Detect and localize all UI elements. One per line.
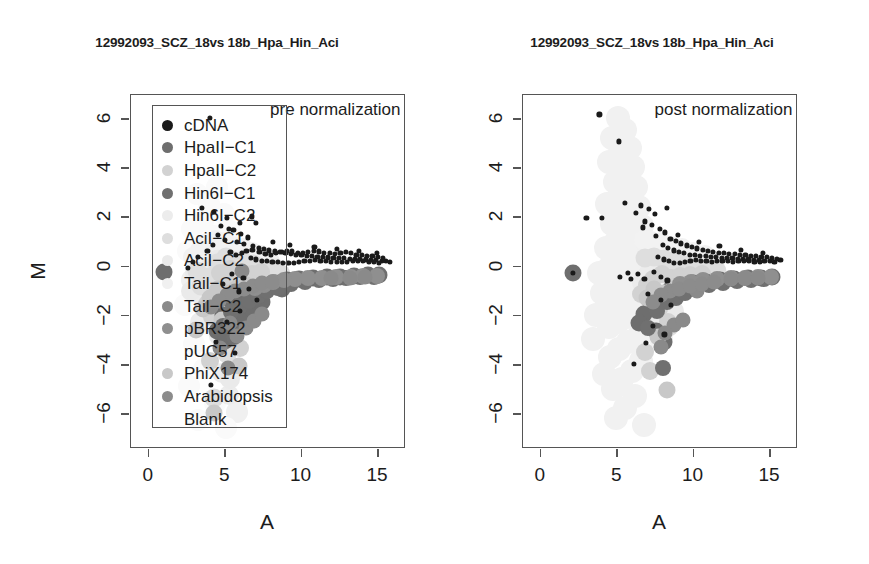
- legend-item[interactable]: Blank: [153, 408, 286, 431]
- legend-item[interactable]: HpaII−C1: [153, 137, 286, 160]
- legend-swatch-icon: [162, 142, 173, 153]
- x-tick-mark: [693, 449, 695, 457]
- x-tick-label: 15: [366, 464, 387, 486]
- y-tick-mark: [513, 216, 521, 218]
- legend-item[interactable]: AciI−C2: [153, 250, 286, 273]
- legend-swatch-icon: [162, 278, 173, 289]
- y-tick-mark: [121, 118, 129, 120]
- x-tick-label: 15: [758, 464, 779, 486]
- legend-label: pBR322: [184, 320, 245, 337]
- legend-item[interactable]: Tail−C1: [153, 272, 286, 295]
- y-tick-label: −4: [485, 353, 507, 375]
- x-axis-title: A: [260, 510, 274, 534]
- x-tick-label: 5: [219, 464, 230, 486]
- y-tick-mark: [121, 167, 129, 169]
- x-axis-title: A: [652, 510, 666, 534]
- legend-swatch-icon: [162, 368, 173, 379]
- y-tick-mark: [513, 364, 521, 366]
- y-tick-mark: [121, 216, 129, 218]
- y-tick-label: 0: [93, 260, 115, 271]
- panel-annotation-pre: pre normalization: [270, 100, 400, 120]
- legend-label: Tail−C1: [184, 275, 241, 292]
- x-tick-mark: [148, 449, 150, 457]
- legend-swatch-icon: [162, 233, 173, 244]
- y-tick-mark: [513, 315, 521, 317]
- x-tick-mark: [616, 449, 618, 457]
- y-tick-mark: [121, 364, 129, 366]
- ma-plot-figure: 12992093_SCZ_18vs 18b_Hpa_Hin_Aci 129920…: [0, 0, 869, 564]
- legend-label: HpaII−C1: [184, 139, 256, 156]
- panel-annotation-post: post normalization: [655, 100, 793, 120]
- legend-label: Tail−C2: [184, 298, 241, 315]
- x-tick-label: 10: [290, 464, 311, 486]
- legend-box: cDNAHpaII−C1HpaII−C2Hin6I−C1Hin6I−C2AciI…: [152, 105, 287, 428]
- x-tick-mark: [301, 449, 303, 457]
- y-tick-mark: [513, 167, 521, 169]
- legend-label: Blank: [184, 411, 227, 428]
- y-tick-label: 2: [485, 211, 507, 222]
- legend-swatch-icon: [162, 414, 173, 425]
- y-tick-label: 4: [485, 162, 507, 173]
- legend-label: PhiX174: [184, 365, 248, 382]
- legend-label: Hin6I−C2: [184, 207, 255, 224]
- y-tick-label: −2: [485, 304, 507, 326]
- y-tick-label: 6: [93, 113, 115, 124]
- x-tick-label: 0: [143, 464, 154, 486]
- legend-item[interactable]: Hin6I−C1: [153, 182, 286, 205]
- y-axis-title: M: [26, 262, 50, 280]
- legend-item[interactable]: Hin6I−C2: [153, 204, 286, 227]
- legend-label: cDNA: [184, 117, 228, 134]
- legend-swatch-icon: [162, 301, 173, 312]
- legend-label: pUC57: [184, 343, 237, 360]
- y-tick-label: −2: [93, 304, 115, 326]
- legend-swatch-icon: [162, 210, 173, 221]
- y-tick-mark: [121, 315, 129, 317]
- y-tick-label: 6: [485, 113, 507, 124]
- legend-item[interactable]: Arabidopsis: [153, 385, 286, 408]
- legend-label: HpaII−C2: [184, 162, 256, 179]
- y-tick-mark: [513, 413, 521, 415]
- x-tick-mark: [377, 449, 379, 457]
- x-tick-label: 5: [611, 464, 622, 486]
- x-tick-mark: [540, 449, 542, 457]
- panel-title-post: 12992093_SCZ_18vs 18b_Hpa_Hin_Aci: [435, 35, 869, 50]
- legend-label: Arabidopsis: [184, 388, 273, 405]
- legend-item[interactable]: PhiX174: [153, 363, 286, 386]
- y-tick-mark: [513, 118, 521, 120]
- legend-item[interactable]: pBR322: [153, 317, 286, 340]
- y-tick-label: −4: [93, 353, 115, 375]
- legend-item[interactable]: HpaII−C2: [153, 159, 286, 182]
- x-tick-mark: [769, 449, 771, 457]
- legend-swatch-icon: [162, 165, 173, 176]
- legend-item[interactable]: pUC57: [153, 340, 286, 363]
- legend-swatch-icon: [162, 120, 173, 131]
- x-tick-label: 10: [682, 464, 703, 486]
- y-tick-label: 4: [93, 162, 115, 173]
- y-tick-mark: [513, 266, 521, 268]
- legend-item[interactable]: cDNA: [153, 114, 286, 137]
- legend-label: AciI−C2: [184, 252, 244, 269]
- legend-swatch-icon: [162, 391, 173, 402]
- legend-label: AciI−C1: [184, 230, 244, 247]
- plot-frame-post: [522, 94, 797, 448]
- legend-item[interactable]: AciI−C1: [153, 227, 286, 250]
- y-tick-label: 0: [485, 260, 507, 271]
- x-tick-mark: [224, 449, 226, 457]
- legend-swatch-icon: [162, 323, 173, 334]
- legend-swatch-icon: [162, 346, 173, 357]
- legend-swatch-icon: [162, 255, 173, 266]
- legend-label: Hin6I−C1: [184, 185, 255, 202]
- legend-swatch-icon: [162, 188, 173, 199]
- legend-item[interactable]: Tail−C2: [153, 295, 286, 318]
- y-tick-mark: [121, 413, 129, 415]
- y-tick-label: 2: [93, 211, 115, 222]
- y-tick-label: −6: [93, 402, 115, 424]
- x-tick-label: 0: [535, 464, 546, 486]
- y-tick-mark: [121, 266, 129, 268]
- y-tick-label: −6: [485, 402, 507, 424]
- panel-title-pre: 12992093_SCZ_18vs 18b_Hpa_Hin_Aci: [0, 35, 434, 50]
